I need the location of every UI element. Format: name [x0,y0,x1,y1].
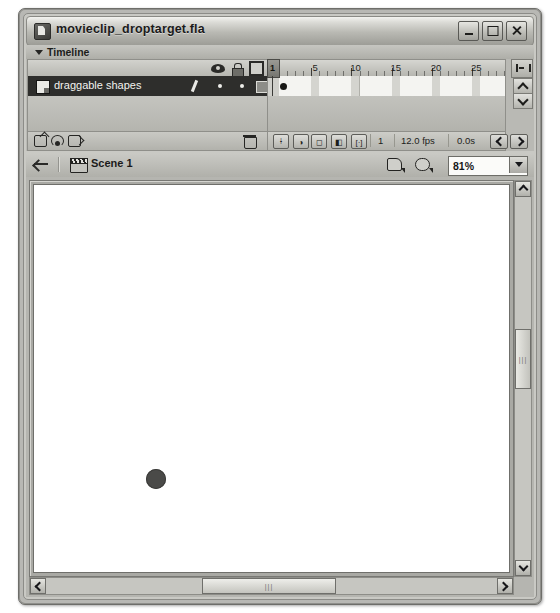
minimize-button[interactable] [458,21,479,41]
flash-document-icon [34,23,51,40]
trash-icon[interactable] [244,135,255,147]
layer-visibility-dot[interactable] [218,84,222,88]
layer-icon [36,80,50,94]
layer-tools-bar [27,131,267,151]
status-separator [394,134,395,147]
zoom-value: 81% [449,160,474,172]
ruler-label: 5 [313,62,318,73]
window-title: movieclip_droptarget.fla [56,22,205,36]
scroll-grip: ||| [519,356,527,363]
layers-column: draggable shapes [27,59,267,151]
layers-empty-area [27,96,267,133]
window-frame: movieclip_droptarget.fla Timeline [18,8,542,605]
previous-keyframe-button[interactable] [490,134,508,149]
maximize-icon [487,26,498,36]
triangle-down-icon[interactable] [35,50,43,55]
scroll-down-icon[interactable] [513,93,533,109]
ruler-label: 20 [431,62,442,73]
modify-onion-markers-button[interactable]: [·] [351,134,367,149]
playhead-head[interactable]: 1 [267,59,280,78]
outline-square-icon[interactable] [249,61,264,76]
close-icon [511,26,522,37]
scroll-left-icon[interactable] [30,578,46,594]
scroll-up-icon[interactable] [515,181,531,197]
pencil-icon [191,80,198,92]
flash-application-window: movieclip_droptarget.fla Timeline [18,8,542,605]
scroll-right-icon[interactable] [497,578,513,594]
timeline-status-bar: ⟊ ◑ ◻ ◧ [·] 1 12.0 fps 0.0s [267,131,506,151]
edit-scene-icon[interactable] [386,157,406,173]
scroll-down-icon[interactable] [515,560,531,576]
onion-outlines-button[interactable]: ◻ [311,134,327,149]
lock-icon[interactable] [232,63,242,75]
maximize-button[interactable] [482,21,503,41]
onion-skin-glyph: ◑ [299,137,304,146]
insert-layer-icon[interactable] [34,135,47,147]
timeline-panel: draggable shapes 5101 [26,59,534,151]
layer-row-draggable-shapes[interactable]: draggable shapes [27,76,267,97]
zoom-select[interactable]: 81% [448,156,528,176]
chevron-down-icon[interactable] [509,157,527,173]
onion-skin-button[interactable]: ◑ [293,134,309,149]
edit-multiple-glyph: ◧ [335,137,343,146]
work-area: ||| ||| [26,177,534,597]
close-button[interactable] [506,21,527,41]
center-frame-glyph: ⟊ [280,137,282,147]
scroll-grip: ||| [265,583,273,590]
vertical-scrollbar[interactable]: ||| [514,180,532,577]
window-inner: movieclip_droptarget.fla Timeline [23,13,537,600]
keyframe-marker[interactable] [280,83,287,90]
stage[interactable] [33,184,510,573]
ruler-label: 25 [471,62,482,73]
layer-lock-dot[interactable] [240,84,244,88]
frame-cell[interactable] [504,76,506,96]
elapsed-time-value: 0.0s [457,135,475,146]
ruler-label: 10 [350,62,361,73]
horizontal-scrollbar[interactable]: ||| [29,577,514,595]
edit-bar-separator [58,157,59,172]
frame-view-menu-icon[interactable] [511,59,533,78]
vertical-scroll-thumb[interactable]: ||| [515,329,531,389]
insert-folder-icon[interactable] [68,135,81,147]
frames-area: 510152025 1 ⟊ ◑ ◻ ◧ [·] [267,59,534,151]
motion-guide-icon[interactable] [51,135,64,147]
frame-grid[interactable] [267,76,506,97]
ruler-label: 15 [390,62,401,73]
current-frame-value: 1 [378,135,383,146]
scene-name[interactable]: Scene 1 [91,157,133,169]
layer-state-columns [211,61,264,76]
scene-clapper-icon [70,158,86,171]
timeline-right-controls [507,59,534,151]
edit-bar: Scene 1 81% [26,153,534,178]
window-controls [458,21,527,41]
modify-markers-glyph: [·] [355,137,362,146]
scroll-up-icon[interactable] [513,78,533,94]
frame-rate-value[interactable]: 12.0 fps [401,135,435,146]
center-frame-button[interactable]: ⟊ [273,134,289,149]
horizontal-scroll-thumb[interactable]: ||| [202,578,336,594]
stage-container [29,180,514,577]
onion-outlines-glyph: ◻ [316,137,323,146]
frames-empty-area [267,96,506,133]
draggable-circle[interactable] [146,469,166,489]
back-arrow-icon[interactable] [34,159,48,170]
minimize-icon [465,33,473,35]
eye-icon[interactable] [211,64,225,73]
edit-multiple-frames-button[interactable]: ◧ [331,134,347,149]
status-separator [370,134,371,147]
playhead-frame-number: 1 [270,63,275,73]
timeline-panel-header[interactable]: Timeline [26,45,534,60]
title-bar[interactable]: movieclip_droptarget.fla [26,16,534,46]
status-separator [448,134,449,147]
layer-name[interactable]: draggable shapes [54,79,141,91]
edit-symbol-icon[interactable] [414,157,434,173]
timeline-panel-title: Timeline [47,46,89,58]
